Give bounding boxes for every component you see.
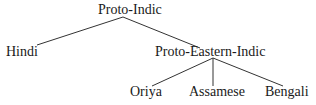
edge-proto-indic-hindi [37,17,123,45]
node-oriya: Oriya [130,84,162,100]
node-bengali: Bengali [265,84,309,100]
node-proto-eastern-indic: Proto-Eastern-Indic [155,44,265,60]
node-proto-indic: Proto-Indic [98,2,162,18]
node-assamese: Assamese [189,84,245,100]
edge-proto-eastern-indic-oriya [152,58,213,86]
node-hindi: Hindi [6,44,38,60]
edge-proto-eastern-indic-bengali [213,58,283,86]
